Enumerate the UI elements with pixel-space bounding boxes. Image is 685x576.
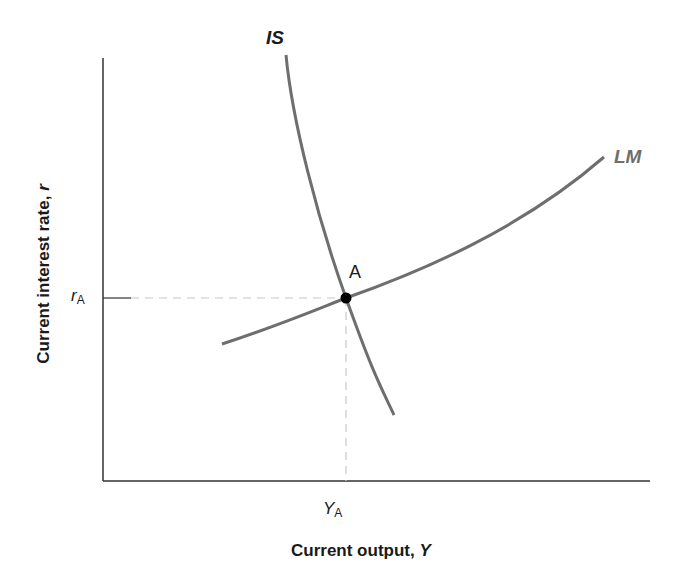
y-axis-title: Current interest rate, r [34, 184, 54, 364]
equilibrium-point-a [341, 293, 352, 304]
is-curve [286, 55, 394, 415]
point-a-label: A [349, 262, 361, 283]
r-a-tick-label: rA [71, 286, 85, 307]
is-curve-label: IS [266, 27, 284, 49]
y-a-tick-label: YA [323, 499, 342, 520]
x-axis-title: Current output, Y [291, 541, 431, 561]
lm-curve [222, 157, 604, 344]
lm-curve-label: LM [614, 146, 641, 168]
chart-canvas [0, 0, 685, 576]
